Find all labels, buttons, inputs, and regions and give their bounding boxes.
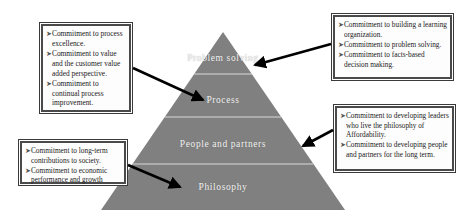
- pyramid-tier-label-process: Process: [178, 96, 268, 106]
- bullet-text: Commitment to problem solving.: [344, 40, 447, 50]
- list-item: ➤ Commitment to developing leaders who l…: [340, 111, 449, 140]
- pyramid-tier-label-people-and-partners: People and partners: [148, 140, 298, 150]
- callout-box-learning-organization: ➤ Commitment to building a learning orga…: [331, 13, 454, 81]
- list-item: ➤ Commitment to developing people and pa…: [340, 140, 449, 159]
- callout-box-society-contributions: ➤ Commitment to long-term contributions …: [18, 139, 128, 186]
- bullet-text: Commitment to long-term contributions to…: [31, 146, 121, 165]
- bullet-list: ➤ Commitment to long-term contributions …: [25, 146, 121, 185]
- bullet-list: ➤ Commitment to developing leaders who l…: [340, 111, 449, 160]
- bullet-text: Commitment to continual process improvem…: [52, 79, 126, 108]
- list-item: ➤ Commitment to building a learning orga…: [338, 20, 447, 39]
- bullet-text: Commitment to facts-based decision makin…: [344, 50, 447, 69]
- bullet-list: ➤ Commitment to process excellence. ➤ Co…: [46, 29, 126, 108]
- list-item: ➤ Commitment to facts-based decision mak…: [338, 50, 447, 69]
- list-item: ➤ Commitment to long-term contributions …: [25, 146, 121, 165]
- bullet-list: ➤ Commitment to building a learning orga…: [338, 20, 447, 69]
- bullet-text: Commitment to developing people and part…: [346, 140, 449, 159]
- bullet-text: Commitment to process excellence.: [52, 29, 126, 49]
- bullet-text: Commitment to value and the customer val…: [52, 49, 126, 78]
- list-item: ➤ Commitment to process excellence.: [46, 29, 126, 49]
- callout-box-process-excellence: ➤ Commitment to process excellence. ➤ Co…: [39, 22, 133, 114]
- diagram-canvas: Problem solving Process People and partn…: [0, 0, 461, 224]
- bullet-text: Commitment to building a learning organi…: [344, 20, 447, 39]
- bullet-text: Commitment to developing leaders who liv…: [346, 111, 449, 140]
- callout-box-developing-leaders: ➤ Commitment to developing leaders who l…: [333, 104, 456, 173]
- list-item: ➤ Commitment to continual process improv…: [46, 79, 126, 108]
- list-item: ➤ Commitment to problem solving.: [338, 40, 447, 50]
- list-item: ➤ Commitment to economic performance and…: [25, 166, 121, 185]
- pyramid-tier-label-problem-solving: Problem solving: [178, 54, 268, 64]
- pyramid-tier-label-philosophy: Philosophy: [158, 183, 288, 193]
- bullet-text: Commitment to economic performance and g…: [31, 166, 121, 185]
- list-item: ➤ Commitment to value and the customer v…: [46, 49, 126, 78]
